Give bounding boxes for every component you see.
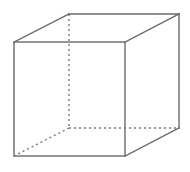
bottom-right-receding-edge: [125, 128, 179, 156]
top-left-receding-edge: [14, 14, 69, 42]
cube-diagram: [0, 0, 190, 172]
top-right-receding-edge: [125, 14, 179, 42]
cube-drawing: [0, 0, 190, 172]
hidden-edges: [14, 14, 179, 156]
solid-edges: [14, 14, 179, 156]
bottom-left-receding-edge: [14, 128, 69, 156]
